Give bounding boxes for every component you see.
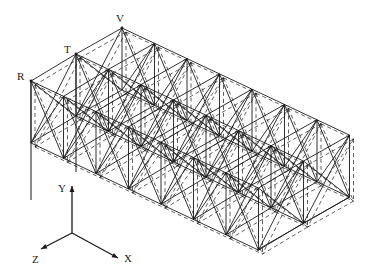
axis-label-z: Z [32, 254, 39, 265]
axis-label-x: X [124, 253, 132, 264]
node-label-t: T [64, 44, 71, 55]
truss-diagram: R T V Y Z X [0, 0, 366, 280]
node-label-r: R [17, 71, 24, 82]
node-label-v: V [116, 13, 124, 24]
truss-structure-drawing [0, 0, 366, 280]
axis-label-y: Y [58, 183, 66, 194]
